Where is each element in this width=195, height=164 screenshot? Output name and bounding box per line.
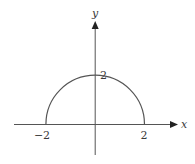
- y-axis-label: y: [91, 7, 99, 20]
- semicircle-graph: y x −2 2 2: [0, 0, 195, 164]
- y-tick-label-2: 2: [100, 69, 107, 82]
- x-tick-label-neg2: −2: [34, 129, 50, 142]
- y-axis: [92, 21, 99, 155]
- x-axis-arrow-icon: [170, 121, 178, 128]
- y-axis-arrow-icon: [92, 21, 99, 29]
- x-axis-label: x: [181, 118, 188, 131]
- x-axis: [14, 121, 178, 128]
- x-tick-label-2: 2: [141, 129, 148, 142]
